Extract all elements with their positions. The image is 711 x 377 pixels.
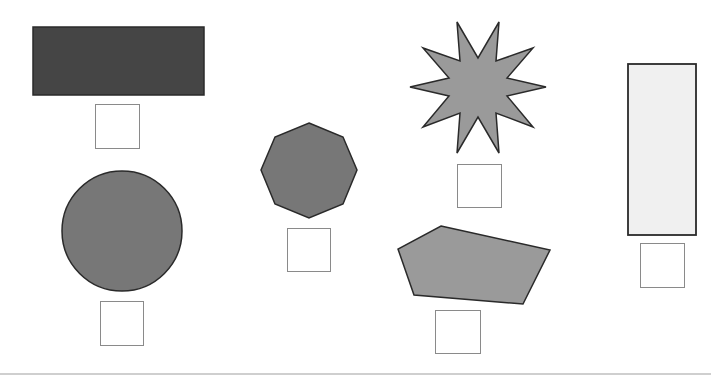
- answer-box-ten-point-star[interactable]: [457, 164, 502, 208]
- answer-box-tall-rectangle[interactable]: [640, 243, 685, 288]
- pentagon-shape: [398, 226, 550, 304]
- answer-box-wide-rectangle[interactable]: [95, 104, 140, 149]
- ten-point-star-shape: [410, 22, 546, 153]
- answer-box-octagon[interactable]: [287, 228, 331, 272]
- bottom-divider: [0, 373, 711, 375]
- octagon-shape: [261, 123, 357, 218]
- tall-rectangle-shape: [628, 64, 696, 235]
- answer-box-circle[interactable]: [100, 301, 144, 346]
- answer-box-pentagon[interactable]: [435, 310, 481, 354]
- wide-rectangle-shape: [33, 27, 204, 95]
- circle-shape: [62, 171, 182, 291]
